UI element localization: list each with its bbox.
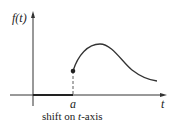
start-point — [71, 69, 76, 74]
y-axis-arrow-icon — [31, 11, 35, 18]
shift-point-label: a — [70, 97, 76, 111]
x-axis-label: t — [161, 97, 165, 111]
diagram-canvas: f(t) t a shift on t-axis — [0, 0, 178, 127]
caption: shift on t-axis — [42, 110, 103, 122]
y-axis-label: f(t) — [12, 11, 27, 25]
function-curve — [73, 44, 157, 81]
